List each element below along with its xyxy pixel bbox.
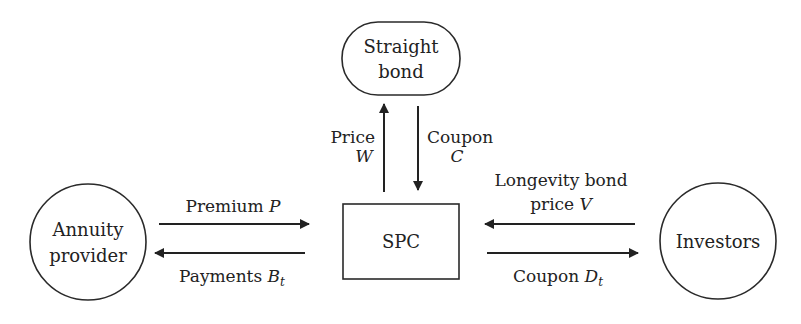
annuity-provider-node: Annuity provider	[30, 184, 146, 300]
longevity-v-var: V	[580, 194, 594, 214]
payments-bt-var: B	[267, 266, 281, 286]
annuity-provider-label-line1: Annuity	[52, 219, 125, 240]
longevity-v-text: price	[530, 194, 579, 214]
premium-p-var: P	[268, 196, 281, 216]
price-w-label-line1: Price	[330, 127, 375, 147]
edge-price-w: Price W	[330, 104, 384, 192]
payments-bt-label: Payments Bt	[179, 266, 285, 289]
edge-coupon-c: Coupon C	[418, 106, 493, 190]
spc-node: SPC	[343, 204, 459, 279]
edge-coupon-dt: Coupon Dt	[487, 253, 638, 289]
coupon-dt-var: D	[584, 266, 599, 286]
longevity-v-label-line2: price V	[530, 194, 593, 214]
coupon-dt-label: Coupon Dt	[513, 266, 603, 289]
price-w-label-var: W	[355, 146, 374, 166]
premium-p-text: Premium	[185, 196, 269, 216]
longevity-bond-flow-diagram: Straight bond SPC Annuity provider Inves…	[0, 0, 801, 324]
premium-p-label: Premium P	[185, 196, 281, 216]
straight-bond-label-line2: bond	[378, 61, 423, 82]
edge-premium-p: Premium P	[159, 196, 309, 224]
investors-node: Investors	[660, 183, 776, 299]
coupon-dt-sub: t	[598, 275, 603, 289]
coupon-c-label-line1: Coupon	[427, 127, 493, 147]
edge-longevity-v: Longevity bond price V	[485, 170, 635, 224]
straight-bond-label-line1: Straight	[363, 36, 439, 57]
edge-payments-bt: Payments Bt	[155, 253, 305, 289]
longevity-v-label-line1: Longevity bond	[494, 170, 627, 190]
payments-bt-text: Payments	[179, 266, 268, 286]
coupon-c-label-var: C	[450, 146, 463, 166]
spc-label: SPC	[382, 231, 420, 252]
payments-bt-sub: t	[280, 275, 285, 289]
annuity-provider-label-line2: provider	[49, 245, 127, 266]
coupon-dt-text: Coupon	[513, 266, 585, 286]
straight-bond-shape	[342, 22, 460, 95]
straight-bond-node: Straight bond	[342, 22, 460, 95]
annuity-provider-shape	[30, 184, 146, 300]
investors-label: Investors	[676, 231, 761, 252]
